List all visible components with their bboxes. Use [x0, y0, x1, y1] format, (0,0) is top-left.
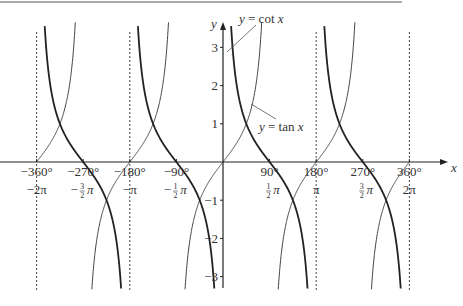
- svg-text:3: 3: [80, 182, 84, 191]
- x-tick-label-rad: π: [313, 182, 320, 197]
- x-axis-label: x: [450, 160, 457, 175]
- tan-curve-branch: [37, 22, 76, 162]
- svg-text:2: 2: [267, 191, 271, 200]
- svg-text:2: 2: [173, 191, 177, 200]
- svg-text:−π: −π: [123, 182, 137, 197]
- svg-text:π: π: [367, 182, 374, 197]
- svg-text:2: 2: [80, 191, 84, 200]
- x-tick-label-deg: −360°: [21, 164, 53, 179]
- svg-text:π: π: [313, 182, 320, 197]
- y-tick-label: −3: [204, 269, 218, 284]
- tan-leader: [251, 104, 276, 119]
- svg-text:2π: 2π: [403, 182, 417, 197]
- cot-annotation: y = cot x: [237, 11, 284, 26]
- y-tick-label: −1: [204, 193, 218, 208]
- svg-text:π: π: [180, 182, 187, 197]
- svg-text:−2π: −2π: [26, 182, 47, 197]
- y-tick-label: −2: [204, 231, 218, 246]
- svg-text:3: 3: [360, 182, 364, 191]
- x-axis-arrow-icon: [440, 159, 448, 165]
- y-tick-label: 1: [212, 116, 219, 131]
- x-tick-label-rad: −32π: [71, 182, 94, 200]
- x-tick-label-deg: 90°: [260, 164, 278, 179]
- svg-text:π: π: [273, 182, 280, 197]
- x-tick-label-rad: 12π: [266, 182, 280, 200]
- x-tick-label-rad: 2π: [403, 182, 417, 197]
- x-tick-label-rad: −12π: [164, 182, 187, 200]
- x-tick-label-deg: −90°: [164, 164, 190, 179]
- tan-annotation: y = tan x: [257, 119, 304, 134]
- cot-curve-branch: [324, 26, 400, 288]
- x-tick-label-deg: 360°: [397, 164, 422, 179]
- svg-text:π: π: [87, 182, 94, 197]
- svg-text:2: 2: [360, 191, 364, 200]
- y-axis-arrow-icon: [220, 22, 226, 30]
- annotations: y = cot x y = tan x: [227, 11, 304, 134]
- cot-curve-branch: [45, 26, 121, 288]
- trig-chart: x y −360°−2π−270°−32π−180°−π−90°−12π90°1…: [0, 0, 463, 306]
- y-axis-label: y: [209, 16, 217, 31]
- svg-text:1: 1: [173, 182, 177, 191]
- x-tick-label-deg: 180°: [304, 164, 329, 179]
- x-tick-label-rad: −π: [123, 182, 137, 197]
- svg-text:−: −: [71, 182, 78, 197]
- y-tick-label: 3: [212, 40, 219, 55]
- svg-text:1: 1: [267, 182, 271, 191]
- svg-text:−: −: [164, 182, 171, 197]
- x-tick-label-deg: 270°: [350, 164, 375, 179]
- cot-curve-branch: [138, 26, 214, 288]
- y-tick-label: 2: [212, 78, 219, 93]
- axes: x y: [0, 16, 457, 288]
- x-tick-label-deg: −180°: [114, 164, 146, 179]
- x-tick-label-deg: −270°: [67, 164, 99, 179]
- x-tick-label-rad: −2π: [26, 182, 47, 197]
- x-tick-label-rad: 32π: [359, 182, 373, 200]
- cot-curve-branch: [231, 26, 307, 288]
